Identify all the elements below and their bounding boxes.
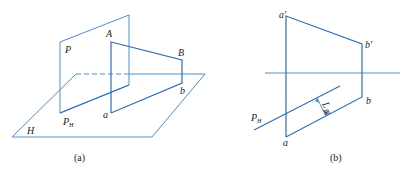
label-B: B (178, 47, 184, 58)
label-a-prime: a′ (279, 9, 287, 20)
front-projection (286, 16, 362, 137)
label-a: a (283, 137, 288, 148)
ph-trace (60, 85, 129, 113)
caption-b: (b) (330, 152, 342, 164)
line-ab-projection (111, 42, 182, 113)
label-A: A (105, 28, 113, 39)
label-b: b (180, 85, 185, 96)
panel-b: a′ b′ b a PH L距 (b) (250, 9, 400, 164)
label-a: a (103, 109, 108, 120)
caption-a: (a) (74, 152, 85, 164)
label-b-prime: b′ (365, 39, 373, 50)
p-plane (60, 15, 129, 113)
h-plane (12, 74, 205, 137)
label-p: P (64, 44, 71, 55)
label-b: b (366, 95, 371, 106)
panel-a: P A B b a PH H (a) (12, 15, 205, 164)
label-H: H (26, 125, 35, 136)
figure-canvas: P A B b a PH H (a) a′ b′ b a PH L距 (b) (0, 0, 410, 176)
label-ph: PH (62, 116, 74, 128)
label-ph: PH (250, 112, 262, 124)
